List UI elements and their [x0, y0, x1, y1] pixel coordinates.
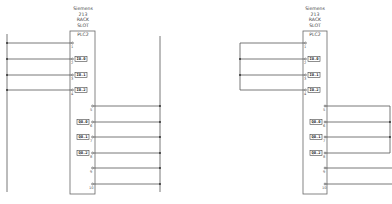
plc-vendor-label: Siemens	[73, 6, 93, 11]
output-rung-9[interactable]: 9	[90, 167, 161, 174]
terminal-icon[interactable]	[92, 167, 94, 169]
io-tag: I0.0	[309, 56, 319, 61]
terminal-icon[interactable]	[305, 42, 307, 44]
terminal-icon[interactable]	[72, 42, 74, 44]
pin-number: 7	[323, 139, 325, 143]
output-rung-5[interactable]: 5	[323, 105, 390, 112]
terminal-icon[interactable]	[324, 183, 326, 185]
plc-model-label: 213	[79, 12, 88, 17]
io-tag: I0.0	[76, 56, 86, 61]
terminal-icon[interactable]	[305, 74, 307, 76]
plc-slot-label: SLOT	[309, 23, 321, 28]
output-rung-10[interactable]: 10	[322, 183, 392, 190]
pin-number: 1	[71, 45, 73, 49]
terminal-icon[interactable]	[324, 167, 326, 169]
io-tag: I0.1	[76, 72, 86, 77]
plc-rack-label: RACK	[309, 17, 322, 22]
terminal-icon[interactable]	[92, 136, 94, 138]
output-rung-5[interactable]: 5	[90, 105, 161, 112]
pin-number: 10	[89, 186, 94, 190]
pin-number: 5	[323, 108, 325, 112]
io-tag: I0.2	[309, 87, 318, 92]
output-rung-9[interactable]: 9	[323, 167, 392, 174]
plc-name-label: PLC2	[309, 32, 321, 37]
io-tag: Q0.1	[311, 134, 321, 139]
terminal-icon[interactable]	[72, 89, 74, 91]
io-tag: Q0.0	[78, 119, 88, 124]
io-tag: Q0.0	[311, 119, 321, 124]
output-rung-6[interactable]: Q0.0 6	[310, 119, 391, 128]
terminal-icon[interactable]	[324, 152, 326, 154]
terminal-icon[interactable]	[324, 136, 326, 138]
io-tag: Q0.2	[78, 150, 87, 155]
io-tag: Q0.2	[311, 150, 320, 155]
terminal-icon[interactable]	[92, 121, 94, 123]
input-rung-1[interactable]: 1	[6, 42, 73, 49]
ladder-diagram-canvas: Siemens 213 RACK SLOT PLC2 1 I0.0 2	[0, 0, 392, 204]
terminal-icon[interactable]	[92, 152, 94, 154]
plc-name-label: PLC2	[77, 32, 89, 37]
pin-number: 2	[71, 61, 73, 65]
pin-number: 10	[322, 186, 327, 190]
pin-number: 5	[90, 108, 92, 112]
pin-number: 1	[304, 45, 306, 49]
terminal-icon[interactable]	[72, 58, 74, 60]
io-tag: Q0.1	[78, 134, 88, 139]
terminal-icon[interactable]	[92, 105, 94, 107]
terminal-icon[interactable]	[324, 105, 326, 107]
pin-number: 3	[71, 77, 73, 81]
io-tag: I0.2	[76, 87, 85, 92]
terminal-icon[interactable]	[305, 89, 307, 91]
plc-vendor-label: Siemens	[305, 6, 325, 11]
plc-block-right: Siemens 213 RACK SLOT PLC2 1 I0.0 2 I0.1…	[239, 6, 392, 194]
io-tag: I0.1	[309, 72, 319, 77]
plc-block-left: Siemens 213 RACK SLOT PLC2 1 I0.0 2	[6, 6, 161, 194]
terminal-icon[interactable]	[324, 121, 326, 123]
output-rung-7[interactable]: Q0.1 7	[310, 134, 391, 143]
terminal-icon[interactable]	[72, 74, 74, 76]
pin-number: 7	[90, 139, 92, 143]
pin-number: 2	[304, 61, 306, 65]
plc-rack-label: RACK	[77, 17, 90, 22]
output-rung-10[interactable]: 10	[89, 183, 161, 190]
terminal-icon[interactable]	[305, 58, 307, 60]
input-rung-1[interactable]: 1	[240, 42, 306, 49]
pin-number: 3	[304, 77, 306, 81]
plc-slot-label: SLOT	[77, 23, 89, 28]
terminal-icon[interactable]	[92, 183, 94, 185]
plc-model-label: 213	[311, 12, 320, 17]
